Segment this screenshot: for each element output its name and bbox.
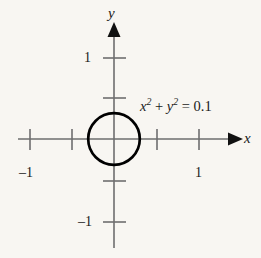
x-axis-arrowhead [228, 133, 243, 146]
plot-svg [0, 0, 261, 258]
equation-equals: = [178, 98, 193, 114]
x-tick-label-minus-1: –1 [19, 166, 33, 180]
y-tick-label-minus-1: –1 [78, 215, 92, 229]
x-axis-label: x [244, 131, 251, 146]
y-axis-arrowhead [108, 22, 121, 37]
equation-plus: + [151, 98, 166, 114]
figure-canvas: y x 1 –1 –1 1 x2 + y2 = 0.1 [0, 0, 261, 258]
y-tick-label-1: 1 [84, 51, 91, 65]
equation-annotation: x2 + y2 = 0.1 [140, 99, 212, 114]
x-tick-label-1: 1 [195, 166, 202, 180]
y-axis-label: y [108, 6, 115, 21]
equation-rhs: 0.1 [194, 98, 212, 114]
